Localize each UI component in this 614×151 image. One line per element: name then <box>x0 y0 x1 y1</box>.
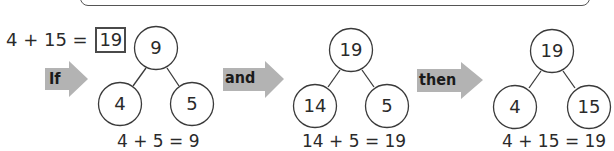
tree-3-equation: 4 + 15 = 19 <box>502 131 606 151</box>
tree-2-part-left: 14 <box>293 84 337 128</box>
tree-1-part-right: 5 <box>170 82 214 126</box>
tree-1-whole: 9 <box>134 26 178 70</box>
tree-1-part-left: 4 <box>98 82 142 126</box>
tree-3-part-left: 4 <box>493 85 537 129</box>
tree-2-whole: 19 <box>329 28 373 72</box>
tree-3-whole: 19 <box>530 29 574 73</box>
tree-1-equation: 4 + 5 = 9 <box>117 131 200 151</box>
tree-2-part-right: 5 <box>365 84 409 128</box>
tree-3-part-right: 15 <box>567 85 611 129</box>
tree-2-equation: 14 + 5 = 19 <box>302 131 406 151</box>
